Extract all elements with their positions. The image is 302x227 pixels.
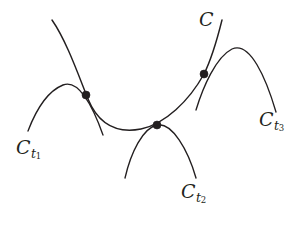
label-ct1-base: C (16, 136, 31, 158)
label-curve-ct3: Ct3 (259, 110, 284, 133)
label-curve-ct2: Ct2 (181, 182, 206, 205)
label-ct3-base: C (259, 108, 274, 130)
label-curve-ct1: Ct1 (16, 138, 41, 161)
curve-main-C (52, 20, 222, 130)
label-ct1-subsub: 1 (36, 151, 41, 161)
label-curve-C: C (199, 10, 214, 29)
figure-svg (0, 0, 302, 227)
intersection-point-3 (200, 70, 208, 78)
label-ct3-subsub: 3 (279, 123, 284, 133)
intersection-point-2 (153, 121, 161, 129)
label-ct2-subsub: 2 (201, 195, 206, 205)
label-C-base: C (199, 8, 214, 30)
curve-arc-ct3 (196, 48, 276, 112)
curve-arc-ct1 (28, 84, 103, 135)
curve-arc-ct2 (125, 125, 196, 178)
figure-canvas: C Ct1 Ct2 Ct3 (0, 0, 302, 227)
label-ct2-base: C (181, 180, 196, 202)
intersection-point-1 (82, 91, 90, 99)
